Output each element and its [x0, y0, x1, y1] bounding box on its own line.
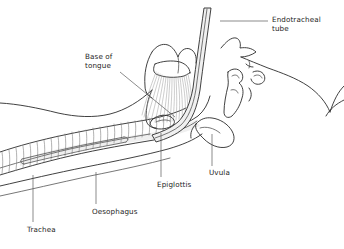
label-endotracheal-tube: Endotracheal tube — [272, 15, 321, 33]
hard-palate — [152, 44, 196, 77]
label-uvula: Uvula — [209, 168, 230, 177]
uvula-outline — [191, 118, 234, 148]
neck-contour — [0, 90, 152, 117]
tongue-body — [145, 52, 156, 128]
anatomy-drawing — [0, 0, 344, 249]
label-trachea: Trachea — [27, 225, 56, 234]
mouth-detail — [246, 61, 265, 101]
hyoid-bone — [224, 69, 243, 117]
label-epiglottis: Epiglottis — [157, 180, 191, 189]
endotracheal-tube — [152, 8, 211, 142]
anatomy-figure: Endotracheal tube Base of tongue Epiglot… — [0, 0, 344, 249]
label-oesophagus: Oesophagus — [92, 207, 138, 216]
label-base-of-tongue: Base of tongue — [85, 52, 112, 70]
